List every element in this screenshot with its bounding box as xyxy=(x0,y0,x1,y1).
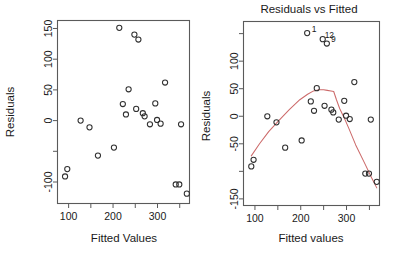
data-point xyxy=(368,117,373,122)
scatter-panel-left: 100200300 -100050100150 Fitted Values Re… xyxy=(0,0,199,253)
data-point xyxy=(251,157,256,162)
data-point xyxy=(374,179,379,184)
data-point xyxy=(134,106,139,111)
data-point xyxy=(274,120,279,125)
left-plot-frame xyxy=(58,21,190,204)
data-point xyxy=(153,101,158,106)
x-tick-label: 300 xyxy=(149,210,167,222)
loess-smoother-curve xyxy=(251,90,376,188)
y-tick-label: -150 xyxy=(228,188,240,209)
y-tick-label: 50 xyxy=(228,83,240,95)
right-x-tick-labels: 100200300 xyxy=(246,212,355,224)
data-point xyxy=(62,174,67,179)
data-point xyxy=(95,153,100,158)
x-tick-label: 200 xyxy=(292,212,310,224)
data-point xyxy=(283,145,288,150)
data-point xyxy=(147,122,152,127)
x-tick-label: 100 xyxy=(246,212,264,224)
x-tick-label: 100 xyxy=(60,210,78,222)
scatter-panel-right: Residuals vs Fitted 100200300 -150-50050… xyxy=(198,0,397,253)
left-plot-svg: 100200300 -100050100150 Fitted Values Re… xyxy=(0,0,199,253)
right-y-axis-title: Residuals xyxy=(200,91,212,142)
left-x-tick-labels: 100200300 xyxy=(60,210,167,222)
data-point xyxy=(311,108,316,113)
right-x-axis-ticks xyxy=(255,206,369,211)
left-x-axis-ticks xyxy=(69,204,180,209)
data-point xyxy=(117,25,122,30)
figure-root: 100200300 -100050100150 Fitted Values Re… xyxy=(0,0,397,253)
right-x-axis-title: Fitted values xyxy=(278,232,343,244)
data-point xyxy=(299,138,304,143)
y-tick-label: 0 xyxy=(228,113,240,119)
right-y-tick-labels: -150-50050100 xyxy=(228,52,240,209)
data-point xyxy=(336,117,341,122)
left-data-points xyxy=(62,25,189,196)
right-data-points xyxy=(249,30,380,184)
data-point xyxy=(347,116,352,121)
y-tick-label: 50 xyxy=(42,84,54,96)
data-point xyxy=(352,80,357,85)
data-point xyxy=(265,114,270,119)
data-point xyxy=(126,87,131,92)
left-y-tick-labels: -100050100150 xyxy=(42,20,54,193)
data-point xyxy=(65,167,70,172)
data-point xyxy=(132,32,137,37)
left-y-axis-title: Residuals xyxy=(4,87,16,138)
data-point xyxy=(322,103,327,108)
x-tick-label: 300 xyxy=(338,212,356,224)
point-label: 1 xyxy=(312,24,317,34)
data-point xyxy=(184,191,189,196)
data-point xyxy=(136,37,141,42)
data-point xyxy=(162,80,167,85)
right-plot-frame xyxy=(244,22,380,206)
data-point xyxy=(158,121,163,126)
y-tick-label: 150 xyxy=(42,20,54,38)
left-x-axis-title: Fitted Values xyxy=(91,232,158,244)
data-point xyxy=(78,118,83,123)
data-point xyxy=(305,30,310,35)
y-tick-label: 100 xyxy=(42,50,54,68)
point-label: 9 xyxy=(331,34,336,44)
y-tick-label: 0 xyxy=(42,118,54,124)
y-tick-label: 100 xyxy=(228,52,240,70)
x-tick-label: 200 xyxy=(104,210,122,222)
y-tick-label: -100 xyxy=(42,171,54,192)
data-point xyxy=(111,145,116,150)
right-plot-title: Residuals vs Fitted xyxy=(260,3,357,15)
data-point xyxy=(342,98,347,103)
right-plot-svg: Residuals vs Fitted 100200300 -150-50050… xyxy=(198,0,397,253)
data-point xyxy=(178,122,183,127)
data-point xyxy=(308,99,313,104)
data-point xyxy=(177,182,182,187)
data-point xyxy=(123,112,128,117)
data-point xyxy=(87,125,92,130)
y-tick-label: -50 xyxy=(228,136,240,151)
data-point xyxy=(324,41,329,46)
data-point xyxy=(249,164,254,169)
data-point xyxy=(120,101,125,106)
